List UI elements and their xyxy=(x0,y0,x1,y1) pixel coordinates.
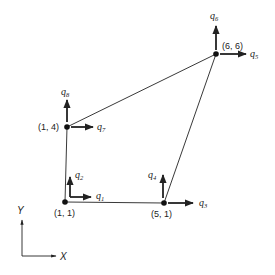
global-axes xyxy=(22,220,56,256)
node-2-dot-icon xyxy=(161,200,167,206)
node-2-label: (5, 1) xyxy=(151,209,172,219)
node-3-label: (6, 6) xyxy=(222,41,243,51)
y-axis-label: Y xyxy=(17,205,25,216)
node-3-dot-icon xyxy=(213,51,219,57)
edge-n1-n2 xyxy=(65,202,164,203)
label-q2: q2 xyxy=(75,169,84,181)
x-axis-label: X xyxy=(59,251,67,262)
label-q4: q4 xyxy=(148,169,157,181)
node-1-dot-icon xyxy=(62,199,68,205)
node-1-label: (1, 1) xyxy=(54,208,75,218)
label-q7: q7 xyxy=(97,121,106,133)
label-q6: q6 xyxy=(210,10,219,22)
label-q5: q5 xyxy=(250,48,259,60)
label-q1: q1 xyxy=(96,190,104,202)
edge-n3-n4 xyxy=(67,54,216,127)
label-q3: q3 xyxy=(199,197,208,209)
node-4-dot-icon xyxy=(64,124,70,130)
edge-n2-n3 xyxy=(164,54,216,203)
edge-n4-n1 xyxy=(65,127,67,202)
element-edges xyxy=(65,54,216,203)
label-q8: q8 xyxy=(61,86,70,98)
nodes xyxy=(62,51,219,206)
node-4-label: (1, 4) xyxy=(38,122,59,132)
dof-arrows xyxy=(67,26,246,203)
element-diagram: (1, 1) (5, 1) (6, 6) (1, 4) q1 q2 q3 q4 … xyxy=(0,0,275,275)
